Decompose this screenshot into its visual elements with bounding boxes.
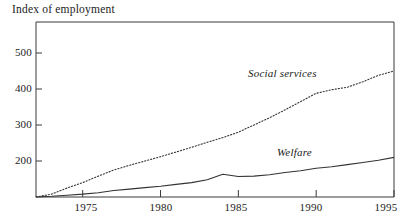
chart-figure: Index of employment 500 400 300 200 1975… (0, 0, 409, 224)
series-line-welfare (36, 157, 394, 197)
series-line-social-services (36, 71, 394, 197)
axis-frame (36, 22, 394, 197)
y-axis-ticks (36, 53, 42, 161)
plot-area (0, 0, 409, 224)
x-axis-ticks (83, 190, 394, 197)
